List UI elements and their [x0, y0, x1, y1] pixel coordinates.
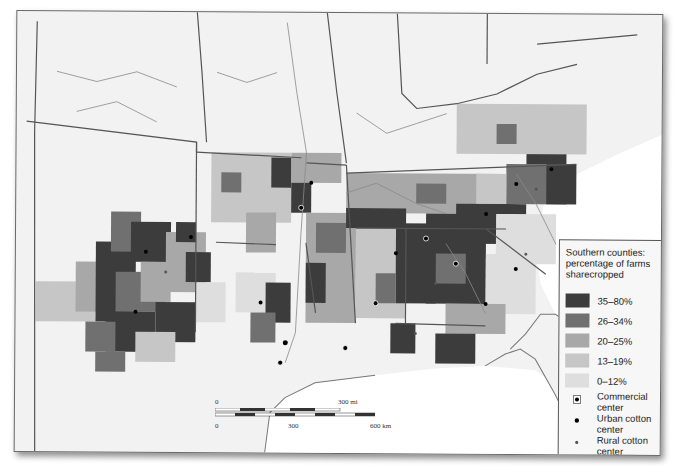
legend-symbol-rural: Rural cotton center: [565, 434, 657, 456]
legend-class-label: 13–19%: [597, 355, 632, 366]
rural-cotton-center-icon: [574, 439, 580, 445]
county-shading: [35, 101, 587, 374]
legend-title: Southern counties: percentage of farms s…: [566, 246, 658, 280]
swatch-20-25: [565, 333, 589, 347]
commercial-center-icon: [573, 395, 581, 403]
legend-symbol-urban: Urban cotton center: [565, 412, 657, 435]
legend-class-2: 26–34%: [565, 312, 632, 328]
map-sheet: Southern counties: percentage of farms s…: [14, 10, 664, 456]
legend-class-1: 35–80%: [566, 292, 633, 308]
legend-class-label: 26–34%: [597, 315, 632, 326]
legend-class-label: 20–25%: [597, 335, 632, 346]
legend-symbol-commercial: Commercial center: [565, 390, 657, 413]
legend-class-label: 0–12%: [597, 375, 627, 386]
legend-class-5: 0–12%: [565, 372, 627, 388]
legend-class-3: 20–25%: [565, 332, 632, 348]
legend-class-label: 35–80%: [598, 295, 633, 306]
urban-cotton-center-icon: [574, 417, 580, 423]
swatch-35-80: [566, 293, 590, 307]
swatch-13-19: [565, 353, 589, 367]
swatch-0-12: [565, 373, 589, 387]
legend-class-4: 13–19%: [565, 352, 632, 368]
scale-bar-graphic: [215, 408, 375, 420]
legend: Southern counties: percentage of farms s…: [558, 239, 662, 456]
swatch-26-34: [565, 313, 589, 327]
